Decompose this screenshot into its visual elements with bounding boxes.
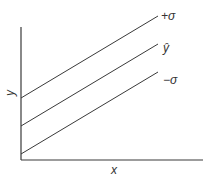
regression-band-diagram: +σ ŷ −σ y x — [0, 0, 217, 181]
minus-sigma-label: −σ — [163, 73, 178, 87]
plus-sigma-label: +σ — [161, 9, 176, 23]
minus-sigma-line — [21, 72, 158, 154]
y-hat-label: ŷ — [162, 41, 170, 55]
y-axis-label: y — [3, 89, 17, 97]
y-hat-line — [21, 44, 158, 126]
plus-sigma-line — [21, 16, 158, 98]
x-axis-label: x — [110, 163, 118, 177]
